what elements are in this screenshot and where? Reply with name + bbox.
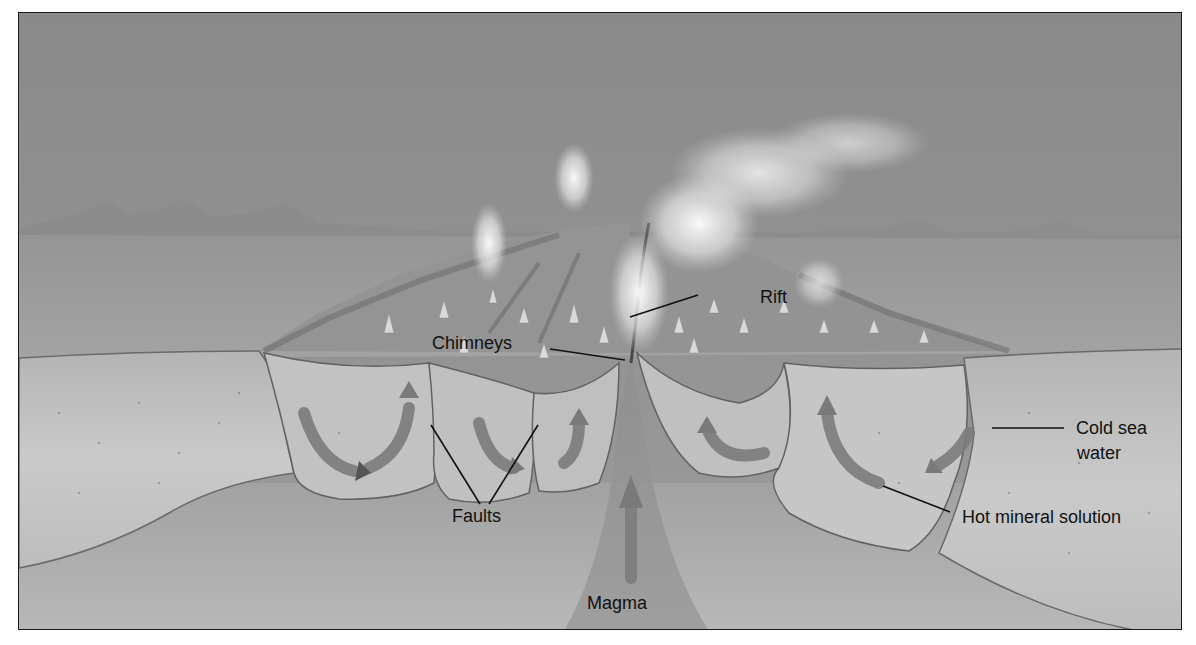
label-chimneys: Chimneys (432, 333, 512, 353)
label-cold-sea-water-line1: Cold sea (1076, 418, 1147, 438)
label-hot-mineral-solution: Hot mineral solution (962, 507, 1121, 527)
ridge-illustration (19, 13, 1182, 630)
label-cold-sea-water-line2: water (1077, 443, 1121, 463)
label-faults: Faults (452, 506, 501, 526)
label-rift: Rift (760, 287, 787, 307)
label-magma: Magma (587, 593, 647, 613)
diagram-frame (18, 12, 1182, 630)
